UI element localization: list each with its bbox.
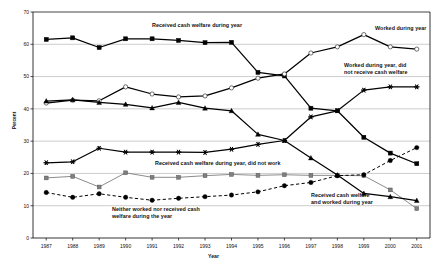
svg-text:50: 50 xyxy=(23,73,29,79)
annotation-worked-during-year: Worked during year xyxy=(375,25,426,32)
svg-text:30: 30 xyxy=(23,138,29,144)
svg-text:2000: 2000 xyxy=(385,243,396,249)
annotation-worked-not-receive-welfare: Worked during year, did not receive cash… xyxy=(344,62,408,75)
svg-text:2001: 2001 xyxy=(411,243,422,249)
svg-text:10: 10 xyxy=(23,203,29,209)
chart-plot-area: 0102030405060701987198819891990199119921… xyxy=(0,0,443,273)
svg-text:0: 0 xyxy=(26,235,29,241)
series-2 xyxy=(44,85,420,165)
x-axis-title: Year xyxy=(208,253,219,259)
svg-text:60: 60 xyxy=(23,41,29,47)
annotation-neither-worked-nor-welfare: Neither worked nor received cash welfare… xyxy=(112,206,200,219)
svg-text:1997: 1997 xyxy=(305,243,316,249)
svg-text:1992: 1992 xyxy=(173,243,184,249)
svg-text:1990: 1990 xyxy=(120,243,131,249)
svg-text:1999: 1999 xyxy=(358,243,369,249)
svg-text:1989: 1989 xyxy=(94,243,105,249)
welfare-work-line-chart: 0102030405060701987198819891990199119921… xyxy=(0,0,443,273)
annotation-welfare-did-not-work: Received cash welfare during year, did n… xyxy=(155,160,280,167)
svg-text:1987: 1987 xyxy=(41,243,52,249)
svg-text:1993: 1993 xyxy=(199,243,210,249)
svg-text:40: 40 xyxy=(23,106,29,112)
annotation-received-cash-welfare: Received cash welfare during year xyxy=(152,22,242,29)
svg-text:20: 20 xyxy=(23,170,29,176)
svg-text:1996: 1996 xyxy=(279,243,290,249)
annotation-welfare-and-worked: Received cash welfare and worked during … xyxy=(311,192,373,205)
svg-text:1998: 1998 xyxy=(332,243,343,249)
svg-text:1988: 1988 xyxy=(67,243,78,249)
svg-text:1991: 1991 xyxy=(147,243,158,249)
svg-text:70: 70 xyxy=(23,9,29,15)
svg-text:1995: 1995 xyxy=(252,243,263,249)
y-axis-title: Percent xyxy=(12,101,17,141)
svg-text:1994: 1994 xyxy=(226,243,237,249)
